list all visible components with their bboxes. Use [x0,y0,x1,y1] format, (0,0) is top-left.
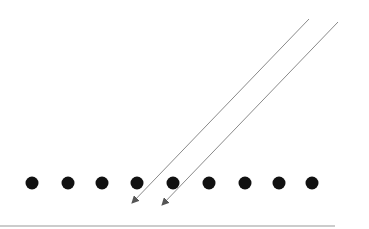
dot [62,177,75,190]
dot [306,177,319,190]
dot [273,177,286,190]
dot-row [26,177,319,190]
dot [96,177,109,190]
dot [203,177,216,190]
arrow-1 [132,19,309,203]
dot [131,177,144,190]
dot [239,177,252,190]
dot [26,177,39,190]
incident-arrows [132,19,338,205]
dot [167,177,180,190]
diagram-canvas [0,0,369,229]
